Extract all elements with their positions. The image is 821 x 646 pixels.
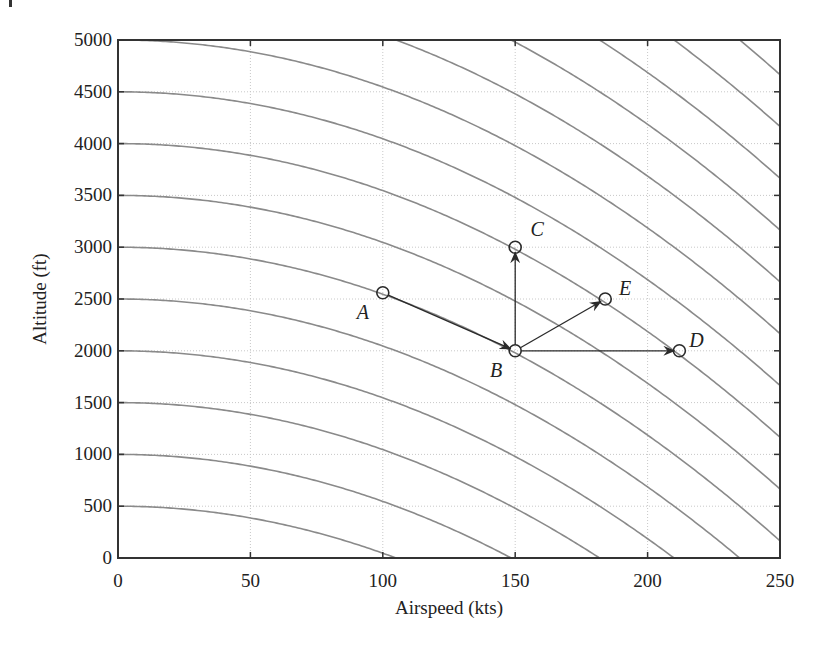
x-tick-label: 50 — [241, 570, 260, 591]
energy-curve — [118, 144, 806, 462]
energy-curve — [118, 40, 806, 358]
y-tick-label: 4000 — [74, 133, 112, 154]
energy-curve — [118, 506, 446, 578]
axis-ticks: 0501001502002500500100015002000250030003… — [74, 29, 794, 591]
y-tick-label: 2000 — [74, 340, 112, 361]
energy-curve — [118, 403, 629, 578]
x-tick-label: 200 — [633, 570, 662, 591]
y-axis-label: Altitude (ft) — [29, 253, 51, 344]
energy-curve — [118, 0, 806, 150]
point-b-label: B — [490, 359, 502, 381]
x-tick-label: 100 — [369, 570, 398, 591]
grid-lines — [118, 40, 780, 558]
energy-curve — [118, 0, 806, 306]
energy-curves — [118, 0, 806, 579]
energy-curve — [118, 454, 547, 577]
y-tick-label: 500 — [84, 495, 113, 516]
transition-arrows — [388, 252, 674, 351]
y-tick-label: 4500 — [74, 81, 112, 102]
energy-curve — [118, 195, 806, 513]
y-tick-label: 0 — [103, 547, 113, 568]
x-tick-label: 0 — [113, 570, 123, 591]
y-tick-label: 2500 — [74, 288, 112, 309]
arrow-b-to-e — [520, 301, 600, 347]
x-tick-label: 250 — [766, 570, 795, 591]
x-tick-label: 150 — [501, 570, 530, 591]
energy-curve — [118, 351, 701, 578]
point-d-label: D — [688, 329, 704, 351]
y-tick-label: 1000 — [74, 443, 112, 464]
y-tick-label: 3000 — [74, 236, 112, 257]
y-tick-label: 1500 — [74, 392, 112, 413]
energy-curve — [118, 92, 806, 410]
arrow-a-to-b — [388, 295, 510, 349]
energy-chart: ABCDE 0501001502002500500100015002000250… — [0, 0, 821, 646]
energy-curve — [118, 0, 806, 99]
energy-curve — [118, 247, 806, 565]
energy-curve — [118, 0, 806, 254]
y-tick-label: 3500 — [74, 184, 112, 205]
point-e-label: E — [618, 277, 631, 299]
point-c-label: C — [531, 218, 545, 240]
x-axis-label: Airspeed (kts) — [395, 597, 503, 619]
energy-curve — [118, 299, 764, 579]
point-a-label: A — [355, 301, 370, 323]
y-tick-label: 5000 — [74, 29, 112, 50]
